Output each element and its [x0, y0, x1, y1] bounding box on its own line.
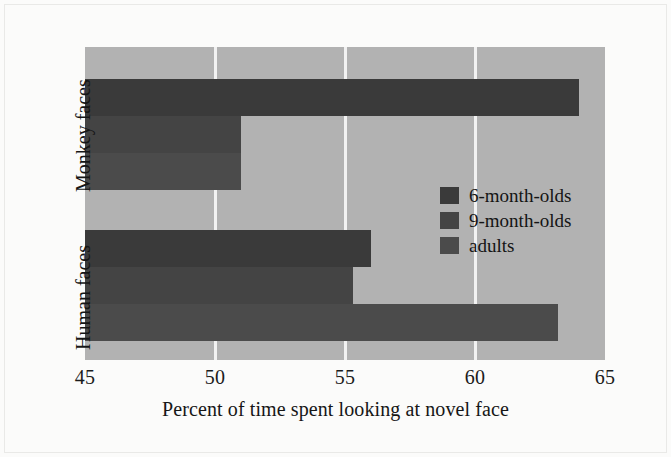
chart-legend: 6-month-olds 9-month-olds adults: [440, 183, 571, 258]
y-category-label-human-faces: Human faces: [72, 245, 95, 350]
bar-monkey-faces-adults: [85, 153, 241, 190]
x-tick-label-55: 55: [335, 366, 355, 389]
x-tick-label-45: 45: [75, 366, 95, 389]
legend-swatch-adults: [440, 237, 459, 254]
legend-item-6-month-olds: 6-month-olds: [440, 183, 571, 208]
bar-human-faces-6-month-olds: [85, 230, 371, 267]
x-axis-title: Percent of time spent looking at novel f…: [0, 398, 671, 421]
x-tick-label-65: 65: [595, 366, 615, 389]
legend-label-6-month-olds: 6-month-olds: [469, 186, 571, 205]
bar-human-faces-9-month-olds: [85, 267, 353, 304]
y-category-label-monkey-faces: Monkey faces: [72, 79, 95, 192]
bar-monkey-faces-6-month-olds: [85, 79, 579, 116]
x-tick-label-50: 50: [205, 366, 225, 389]
legend-label-9-month-olds: 9-month-olds: [469, 211, 571, 230]
legend-label-adults: adults: [469, 236, 514, 255]
bar-monkey-faces-9-month-olds: [85, 116, 241, 153]
x-tick-label-60: 60: [465, 366, 485, 389]
legend-swatch-6-month-olds: [440, 187, 459, 204]
legend-item-9-month-olds: 9-month-olds: [440, 208, 571, 233]
legend-swatch-9-month-olds: [440, 212, 459, 229]
chart-figure: 45 50 55 60 65 Percent of time spent loo…: [0, 0, 671, 457]
legend-item-adults: adults: [440, 233, 571, 258]
bar-human-faces-adults: [85, 304, 558, 341]
